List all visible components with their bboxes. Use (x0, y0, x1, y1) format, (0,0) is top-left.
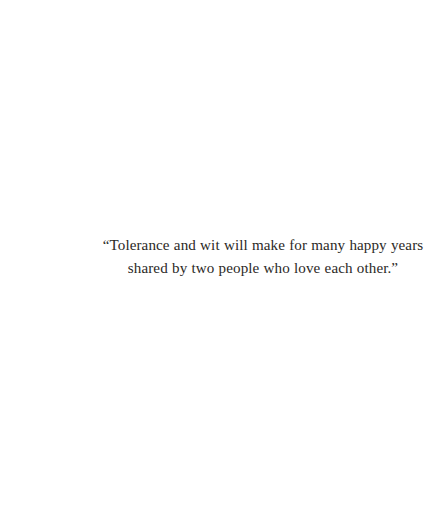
quote-line-1: “Tolerance and wit will make for many ha… (40, 234, 446, 257)
page-canvas: “Tolerance and wit will make for many ha… (0, 0, 446, 510)
quote-block: “Tolerance and wit will make for many ha… (40, 234, 446, 281)
quote-line-2: shared by two people who love each other… (40, 257, 446, 280)
